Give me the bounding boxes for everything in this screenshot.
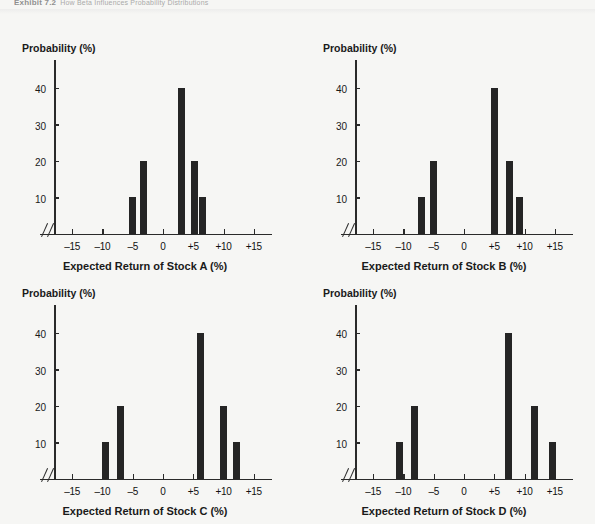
x-axis-tick-label: –5: [127, 241, 138, 252]
exhibit-subtitle: How Beta Influences Probability Distribu…: [60, 0, 208, 6]
x-axis-tick: [464, 474, 465, 479]
x-axis-tick: [163, 474, 164, 479]
x-axis-tick-label: +5: [188, 486, 199, 497]
bar: [199, 197, 206, 233]
bar: [418, 197, 425, 233]
x-axis-tick-label: +10: [517, 486, 533, 497]
bar: [197, 333, 204, 479]
y-axis-title: Probability (%): [22, 287, 96, 299]
bar: [220, 406, 227, 479]
x-axis-tick: [464, 229, 465, 234]
x-axis-tick-label: +15: [246, 241, 262, 252]
y-axis-tick-label: 10: [321, 438, 347, 449]
y-axis-tick: [54, 406, 59, 407]
bar: [491, 88, 498, 234]
y-axis-title: Probability (%): [323, 287, 397, 299]
x-axis-tick-label: –10: [95, 486, 111, 497]
bar: [531, 406, 538, 479]
x-axis-tick-label: –5: [428, 241, 439, 252]
bar: [117, 406, 124, 479]
x-axis-tick: [403, 229, 404, 234]
axis-break-icon: [41, 467, 57, 483]
x-axis-tick: [72, 229, 73, 234]
bar: [233, 442, 240, 478]
y-axis-tick: [355, 161, 360, 162]
x-axis-title: Expected Return of Stock A (%): [0, 260, 290, 272]
x-axis-title: Expected Return of Stock D (%): [297, 505, 591, 517]
x-axis-tick: [403, 474, 404, 479]
y-axis-line: [355, 305, 357, 480]
bar: [140, 161, 147, 234]
y-axis-tick-label: 40: [321, 84, 347, 95]
header-rule: [0, 9, 595, 14]
x-axis-tick-label: +10: [216, 241, 232, 252]
x-axis-tick-label: 0: [461, 486, 466, 497]
x-axis-tick-label: +5: [188, 241, 199, 252]
x-axis-tick: [525, 229, 526, 234]
y-axis-tick-label: 30: [20, 365, 46, 376]
y-axis-tick-label: 40: [321, 329, 347, 340]
x-axis-tick: [254, 229, 255, 234]
exhibit-title: Exhibit 7.2How Beta Influences Probabili…: [14, 0, 209, 7]
y-axis-line: [54, 60, 56, 235]
x-axis-tick: [525, 474, 526, 479]
y-axis-tick: [54, 442, 59, 443]
exhibit-label: Exhibit 7.2: [14, 0, 56, 7]
y-axis-tick: [355, 442, 360, 443]
x-axis-line: [341, 234, 573, 236]
y-axis-tick-label: 40: [20, 329, 46, 340]
y-axis-title: Probability (%): [22, 42, 96, 54]
y-axis-tick-label: 20: [321, 157, 347, 168]
y-axis-title: Probability (%): [323, 42, 397, 54]
x-axis-tick: [373, 229, 374, 234]
y-axis-tick-label: 30: [20, 120, 46, 131]
x-axis-tick-label: +5: [489, 486, 500, 497]
y-axis-tick: [54, 124, 59, 125]
bar: [396, 442, 403, 478]
y-axis-tick: [54, 369, 59, 370]
x-axis-tick: [102, 229, 103, 234]
x-axis-tick-label: +15: [246, 486, 262, 497]
y-axis-tick: [54, 161, 59, 162]
y-axis-line: [54, 305, 56, 480]
x-axis-tick-label: 0: [461, 241, 466, 252]
y-axis-tick: [355, 333, 360, 334]
y-axis-tick-label: 40: [20, 84, 46, 95]
y-axis-tick: [54, 88, 59, 89]
y-axis-tick: [54, 333, 59, 334]
x-axis-tick-label: +5: [489, 241, 500, 252]
x-axis-tick-label: –15: [365, 241, 381, 252]
y-axis-tick-label: 20: [321, 402, 347, 413]
x-axis-tick-label: –15: [64, 241, 80, 252]
x-axis-line: [341, 479, 573, 481]
bar: [516, 197, 523, 233]
x-axis-title: Expected Return of Stock B (%): [297, 260, 591, 272]
x-axis-line: [40, 479, 272, 481]
y-axis-line: [355, 60, 357, 235]
x-axis-tick-label: –10: [95, 241, 111, 252]
x-axis-tick-label: –5: [127, 486, 138, 497]
y-axis-tick-label: 10: [20, 438, 46, 449]
y-axis-tick-label: 20: [20, 402, 46, 413]
x-axis-tick: [72, 474, 73, 479]
x-axis-tick-label: –15: [64, 486, 80, 497]
bar: [505, 333, 512, 479]
x-axis-tick: [163, 229, 164, 234]
x-axis-tick-label: +15: [547, 241, 563, 252]
y-axis-tick-label: 30: [321, 365, 347, 376]
x-axis-line: [40, 234, 272, 236]
y-axis-tick: [355, 124, 360, 125]
y-axis-tick-label: 10: [20, 193, 46, 204]
x-axis-tick-label: +10: [216, 486, 232, 497]
x-axis-tick-label: +10: [517, 241, 533, 252]
bar: [411, 406, 418, 479]
axis-break-icon: [342, 467, 358, 483]
axis-break-icon: [41, 222, 57, 238]
x-axis-tick: [494, 474, 495, 479]
y-axis-tick-label: 30: [321, 120, 347, 131]
plot-area-stock-c: 10203040–15–10–50+5+10+15: [54, 305, 272, 480]
plot-area-stock-d: 10203040–15–10–50+5+10+15: [355, 305, 573, 480]
x-axis-tick: [193, 474, 194, 479]
x-axis-tick-label: 0: [160, 486, 165, 497]
x-axis-tick-label: +15: [547, 486, 563, 497]
